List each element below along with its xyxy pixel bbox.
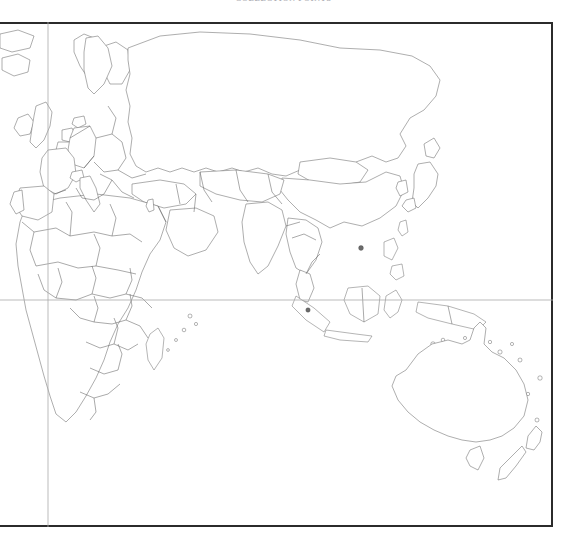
region-uk bbox=[30, 102, 52, 148]
region-hong-kong bbox=[359, 246, 364, 251]
region-portugal bbox=[10, 190, 24, 214]
page-title: COLLECTION POINTS bbox=[0, 0, 567, 2]
region-nz-south bbox=[498, 446, 526, 480]
map-page: COLLECTION POINTS bbox=[0, 0, 567, 544]
world-map bbox=[0, 22, 567, 532]
region-nz-north bbox=[526, 426, 542, 450]
region-ireland bbox=[14, 114, 34, 136]
region-singapore bbox=[306, 308, 310, 312]
region-japan-honshu bbox=[412, 162, 438, 208]
region-japan-kyushu bbox=[402, 198, 416, 212]
region-australia bbox=[392, 322, 528, 442]
region-tasmania bbox=[466, 446, 484, 470]
region-iceland bbox=[2, 54, 30, 76]
region-nz-islet bbox=[535, 418, 539, 422]
region-japan-hokkaido bbox=[424, 138, 440, 158]
region-denmark bbox=[72, 116, 86, 128]
